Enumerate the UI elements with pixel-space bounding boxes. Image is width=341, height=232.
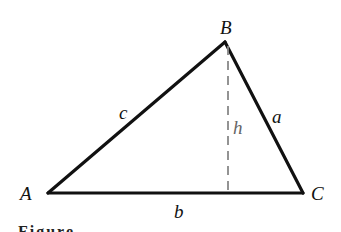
side-c [48, 42, 225, 193]
triangle-diagram [0, 0, 341, 232]
figure-caption: Figure [18, 224, 75, 232]
vertex-label-a: A [20, 184, 32, 203]
vertex-label-c: C [311, 184, 324, 203]
side-label-b: b [174, 202, 184, 221]
vertex-label-b: B [220, 18, 232, 37]
side-label-c: c [119, 103, 127, 122]
side-label-a: a [272, 107, 282, 126]
altitude-label-h: h [233, 118, 243, 137]
